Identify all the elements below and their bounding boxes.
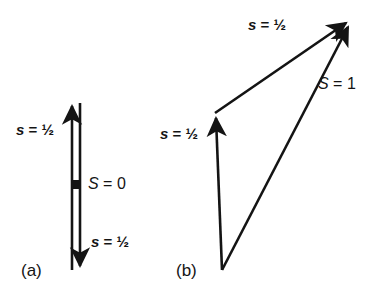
vector-spin-first-b: [216, 118, 222, 270]
value-one-half: ½: [185, 125, 198, 142]
panel-b-vectors: [215, 23, 348, 270]
equals-sign: =: [24, 121, 41, 138]
value-one-half: ½: [41, 121, 54, 138]
zero-spin-marker: [71, 180, 80, 189]
spin-addition-figure: s = ½ S = 0 s = ½ (a) s = ½ S = 1 s = ½ …: [0, 0, 379, 304]
label-spin-up-a: s = ½: [16, 122, 54, 137]
equals-sign: =: [329, 75, 347, 92]
equals-sign: =: [256, 16, 273, 33]
vector-diagram-canvas: [0, 0, 379, 304]
label-total-spin-a: S = 0: [88, 176, 126, 192]
panel-a-vectors: [71, 103, 80, 270]
equals-sign: =: [99, 175, 117, 192]
panel-caption-b: (b): [176, 262, 197, 279]
value-one-half: ½: [273, 16, 286, 33]
panel-caption-a: (a): [21, 262, 42, 279]
symbol-s-upper: S: [88, 175, 99, 192]
equals-sign: =: [168, 125, 185, 142]
label-total-spin-b: S = 1: [318, 76, 356, 92]
value-one-half: ½: [116, 233, 129, 250]
label-spin-first-b: s = ½: [160, 126, 198, 141]
equals-sign: =: [99, 233, 116, 250]
value-one: 1: [347, 75, 356, 92]
label-spin-second-b: s = ½: [248, 17, 286, 32]
label-spin-down-a: s = ½: [91, 234, 129, 249]
value-zero: 0: [117, 175, 126, 192]
symbol-s-upper: S: [318, 75, 329, 92]
